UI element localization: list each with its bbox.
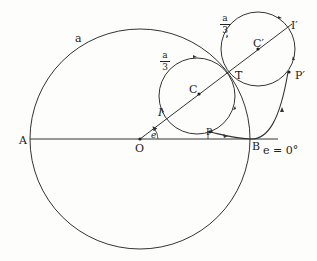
- label-T: T: [235, 70, 242, 81]
- label-I: I: [158, 107, 162, 118]
- trajectory-curve: [210, 72, 288, 139]
- diagram-svg: [0, 0, 317, 261]
- radial-line: [140, 24, 292, 139]
- arrow-marker: [280, 107, 284, 112]
- label-O: O: [135, 143, 144, 154]
- label-big-radius: a: [75, 33, 82, 44]
- point-P-prime: [287, 70, 290, 73]
- label-small-radius-1: a 3: [160, 51, 170, 72]
- arrow-marker: [278, 16, 282, 19]
- label-I-prime: I′: [291, 20, 298, 31]
- diagram-canvas: a A O B P I C T C′ I′ P′ e e = 0° a 3 a …: [0, 0, 317, 261]
- label-B: B: [252, 141, 260, 152]
- fraction-denominator: 3: [220, 25, 230, 35]
- label-angle-condition: e = 0°: [263, 145, 298, 156]
- label-C-prime: C′: [253, 38, 264, 49]
- fraction-numerator: a: [160, 51, 170, 62]
- label-P: P: [206, 128, 212, 137]
- point-C: [197, 92, 200, 95]
- label-small-radius-2: a 3: [220, 14, 230, 35]
- label-C: C: [189, 84, 197, 95]
- label-angle: e: [151, 131, 156, 140]
- arrow-marker: [223, 134, 228, 138]
- fraction-numerator: a: [220, 14, 230, 25]
- fraction-denominator: 3: [160, 62, 170, 72]
- point-O: [138, 137, 141, 140]
- label-P-prime: P′: [295, 70, 305, 81]
- label-A: A: [19, 135, 27, 146]
